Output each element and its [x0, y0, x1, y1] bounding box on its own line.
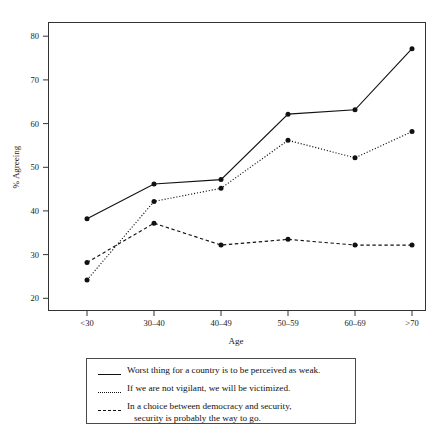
data-point: [219, 186, 224, 191]
plot-frame: [49, 23, 426, 311]
y-tick-label-80: 80: [31, 31, 40, 41]
data-point: [85, 277, 90, 282]
legend-item-1: If we are not vigilant, we will be victi…: [87, 383, 355, 401]
y-axis-ticks: [43, 36, 49, 298]
data-point: [152, 181, 157, 186]
data-point: [152, 221, 157, 226]
y-tick-label-30: 30: [31, 250, 40, 260]
y-tick-label-20: 20: [31, 293, 40, 303]
data-point: [219, 243, 224, 248]
x-tick-label-0: <30: [80, 318, 93, 328]
data-point: [410, 243, 415, 248]
series-layer: [85, 46, 415, 282]
legend-label-2-line2: security is probably the way to go.: [127, 413, 291, 425]
data-point: [286, 138, 291, 143]
figure-container: 20 30 40 50 60 70 80 % Agreeing <30 30–4…: [0, 0, 443, 439]
series-line-1: [87, 132, 412, 280]
data-point: [410, 46, 415, 51]
series-line-0: [87, 49, 412, 219]
legend-label-1: If we are not vigilant, we will be victi…: [127, 383, 290, 395]
data-point: [353, 107, 358, 112]
x-tick-label-1: 30–40: [143, 318, 164, 328]
legend-item-2: In a choice between democracy and securi…: [87, 401, 355, 427]
y-tick-label-70: 70: [31, 75, 40, 85]
x-axis-title: Age: [229, 336, 244, 346]
legend-label-2-wrap: In a choice between democracy and securi…: [127, 401, 291, 424]
y-tick-label-60: 60: [31, 119, 40, 129]
x-tick-label-5: >70: [405, 318, 418, 328]
x-tick-label-3: 50–59: [277, 318, 298, 328]
series-line-2: [87, 223, 412, 262]
data-point: [410, 129, 415, 134]
data-point: [353, 155, 358, 160]
legend: Worst thing for a country is to be perce…: [86, 358, 356, 424]
y-axis-title: % Agreeing: [11, 145, 21, 188]
legend-swatch-dashed-icon: [96, 405, 122, 417]
y-tick-label-50: 50: [31, 162, 40, 172]
y-tick-label-40: 40: [31, 206, 40, 216]
data-point: [85, 216, 90, 221]
data-point: [286, 112, 291, 117]
data-point: [85, 260, 90, 265]
legend-label-2-line1: In a choice between democracy and securi…: [127, 401, 291, 411]
x-tick-label-2: 40–49: [210, 318, 231, 328]
x-axis-ticks: [87, 311, 412, 317]
legend-swatch-dotted-icon: [96, 387, 122, 399]
data-point: [353, 243, 358, 248]
data-point: [152, 199, 157, 204]
data-point: [219, 177, 224, 182]
legend-item-0: Worst thing for a country is to be perce…: [87, 365, 355, 383]
data-point: [286, 237, 291, 242]
legend-swatch-solid-icon: [96, 369, 122, 381]
legend-label-0: Worst thing for a country is to be perce…: [127, 365, 320, 377]
x-tick-label-4: 60–69: [344, 318, 365, 328]
